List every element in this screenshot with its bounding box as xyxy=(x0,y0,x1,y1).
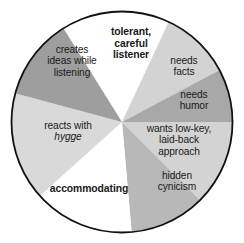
label-line: wants low-key, xyxy=(136,123,222,134)
label-line: listening xyxy=(33,67,111,78)
segment-label-creates-ideas-while-listening: creates ideas while listening xyxy=(33,44,111,78)
label-line: reacts with xyxy=(26,120,110,131)
label-line: creates xyxy=(33,44,111,55)
segment-label-hidden-cynicism: hidden cynicism xyxy=(144,170,210,193)
label-line: facts xyxy=(156,66,212,77)
label-line: tolerant, xyxy=(95,26,167,38)
label-line: humor xyxy=(166,100,222,111)
label-line: accommodating xyxy=(41,183,137,195)
label-line: hidden xyxy=(144,170,210,181)
label-line: needs xyxy=(166,89,222,100)
label-line: needs xyxy=(156,55,212,66)
label-line: cynicism xyxy=(144,181,210,192)
segment-label-accommodating: accommodating xyxy=(41,183,137,195)
label-line: approach xyxy=(136,146,222,157)
label-line: ideas while xyxy=(33,55,111,66)
segment-label-wants-low-key-laid-back-approach: wants low-key, laid-back approach xyxy=(136,123,222,157)
label-line: laid-back xyxy=(136,134,222,145)
segment-label-reacts-with-hygge: reacts with hygge xyxy=(26,120,110,143)
label-line-italic: hygge xyxy=(26,131,110,142)
segmented-circle-diagram: tolerant, careful listener needs facts n… xyxy=(0,0,244,243)
segment-label-needs-humor: needs humor xyxy=(166,89,222,112)
segment-label-needs-facts: needs facts xyxy=(156,55,212,78)
